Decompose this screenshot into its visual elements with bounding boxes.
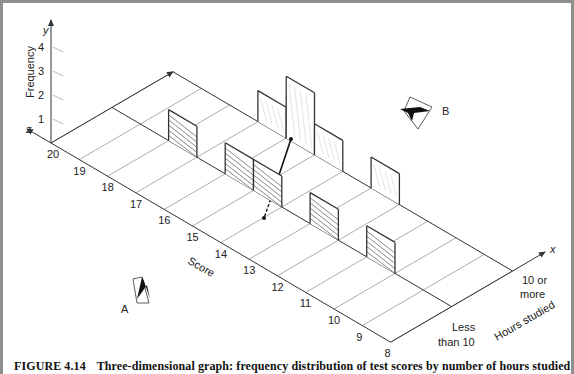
viewpoint-a-label: A (121, 303, 129, 315)
score-tick-label: 15 (187, 231, 199, 243)
y-axis-letter: y (42, 24, 50, 36)
bar (254, 159, 282, 207)
z-axis-letter: z (25, 123, 32, 135)
frequency-tick-label: 1 (38, 113, 44, 125)
hours-category-label: 10 or (522, 274, 547, 286)
x-axis-letter: x (549, 243, 556, 255)
score-tick-label: 10 (328, 314, 340, 326)
bar (367, 226, 395, 274)
hours-category-label: more (520, 288, 545, 300)
bar (169, 110, 197, 158)
figure-caption: FIGURE 4.14 Three-dimensional graph: fre… (14, 359, 570, 374)
score-tick-label: 9 (356, 331, 362, 343)
frequency-tick-label: 4 (38, 41, 44, 53)
score-tick-label: 12 (271, 281, 283, 293)
score-tick-label: 14 (215, 248, 227, 260)
x-axis-label: Hours studied (492, 298, 557, 342)
viewpoint-a-eye-icon (133, 277, 150, 303)
score-tick-label: 11 (300, 297, 311, 309)
score-tick-label: 17 (130, 198, 142, 210)
score-tick-label: 8 (385, 347, 391, 359)
hours-category-label: Less (452, 321, 476, 333)
bar (225, 143, 253, 191)
score-tick-label: 16 (158, 214, 170, 226)
bar (315, 124, 343, 172)
bar (310, 193, 338, 241)
score-tick-label: 20 (47, 148, 59, 160)
viewpoint-b-eye-icon (400, 97, 432, 129)
3d-frequency-chart: 2019181716151413121110981234 y z x Frequ… (0, 0, 574, 374)
y-axis-label: Frequency (24, 46, 36, 98)
hours-category-label: than 10 (438, 336, 475, 348)
viewpoint-b-label: B (442, 105, 449, 117)
score-tick-label: 19 (73, 165, 85, 177)
score-tick-label: 13 (243, 264, 255, 276)
axes: 2019181716151413121110981234 (27, 20, 545, 359)
bar (371, 157, 399, 205)
figure-caption-text: Three-dimensional graph: frequency distr… (97, 359, 571, 373)
figure-number: FIGURE 4.14 (14, 359, 86, 373)
frequency-tick-label: 3 (38, 65, 44, 77)
score-tick-label: 18 (102, 181, 114, 193)
z-axis-label: Score (186, 254, 217, 279)
bar (258, 91, 286, 139)
frequency-tick-label: 2 (38, 89, 44, 101)
